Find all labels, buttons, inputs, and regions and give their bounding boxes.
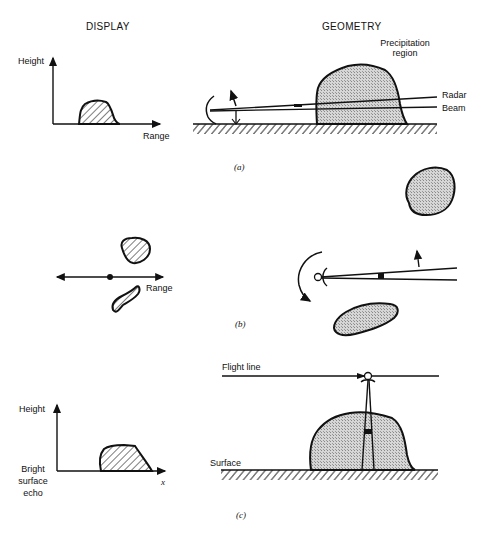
b-range-label: Range: [146, 283, 173, 293]
flight-line-label: Flight line: [222, 362, 261, 372]
ground-hatch: [193, 124, 437, 134]
surface-label: Surface: [210, 458, 241, 468]
radar-geometry-diagram: [0, 0, 477, 533]
range-gate-marker: [378, 273, 384, 279]
ground-hatch: [221, 470, 438, 480]
radar-label: Radar: [442, 90, 467, 100]
caption-b: (b): [235, 319, 246, 329]
panel-b-geometry: [298, 168, 457, 336]
radar-beam-lower: [321, 278, 457, 280]
radar-origin-dot: [107, 274, 113, 280]
geometry-column-header: GEOMETRY: [322, 22, 381, 32]
panel-c-geometry: [221, 373, 439, 481]
bright-surface-echo-label: Bright surface echo: [13, 463, 53, 499]
a-range-label: Range: [143, 131, 170, 141]
precipitation-region-shape: [316, 64, 407, 124]
caption-c: (c): [236, 510, 246, 520]
beam-motion-arrow-icon: [417, 251, 419, 267]
echo-display-shape: [79, 101, 120, 124]
radar-antenna-icon: [315, 274, 322, 281]
range-gate-marker: [364, 429, 372, 434]
panel-b-display-plot: [57, 238, 163, 312]
range-gate-marker: [294, 104, 302, 107]
scan-direction-arrow-icon: [231, 91, 236, 106]
panel-a-display-plot: [53, 58, 160, 124]
caption-a: (a): [234, 162, 245, 172]
c-height-label: Height: [19, 404, 45, 414]
panel-a-geometry: [193, 64, 437, 134]
c-x-axis-label: x: [161, 477, 165, 487]
precipitation-region-upper: [406, 168, 454, 215]
aircraft-radar-icon: [365, 373, 372, 380]
precipitation-region-label: Precipitation region: [370, 38, 440, 58]
echo-shape-upper: [121, 238, 150, 263]
a-height-label: Height: [18, 56, 44, 66]
beam-label: Beam: [442, 103, 466, 113]
radar-beam-upper: [321, 268, 457, 277]
echo-shape-lower: [113, 286, 140, 311]
precipitation-region-lower: [334, 303, 398, 335]
echo-display-shape: [100, 445, 152, 471]
panel-c-display-plot: [57, 405, 165, 471]
display-column-header: DISPLAY: [86, 22, 130, 32]
